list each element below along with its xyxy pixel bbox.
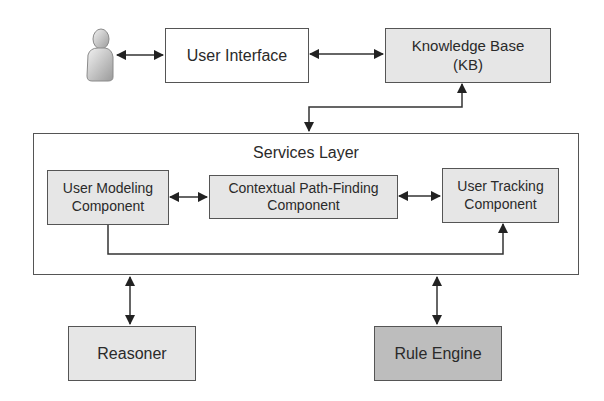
rule-engine-box: Rule Engine xyxy=(374,326,502,381)
user-modeling-sublabel: Component xyxy=(72,198,144,216)
contextual-path-finding-sublabel: Component xyxy=(267,197,339,215)
reasoner-box: Reasoner xyxy=(68,326,196,381)
contextual-path-finding-component-box: Contextual Path-Finding Component xyxy=(209,175,398,219)
user-tracking-component-box: User Tracking Component xyxy=(442,168,559,223)
user-tracking-label: User Tracking xyxy=(457,178,543,196)
user-modeling-component-box: User Modeling Component xyxy=(47,170,169,225)
user-modeling-label: User Modeling xyxy=(63,180,153,198)
contextual-path-finding-label: Contextual Path-Finding xyxy=(228,180,378,198)
reasoner-label: Reasoner xyxy=(97,344,166,364)
user-tracking-sublabel: Component xyxy=(464,196,536,214)
rule-engine-label: Rule Engine xyxy=(394,344,481,364)
